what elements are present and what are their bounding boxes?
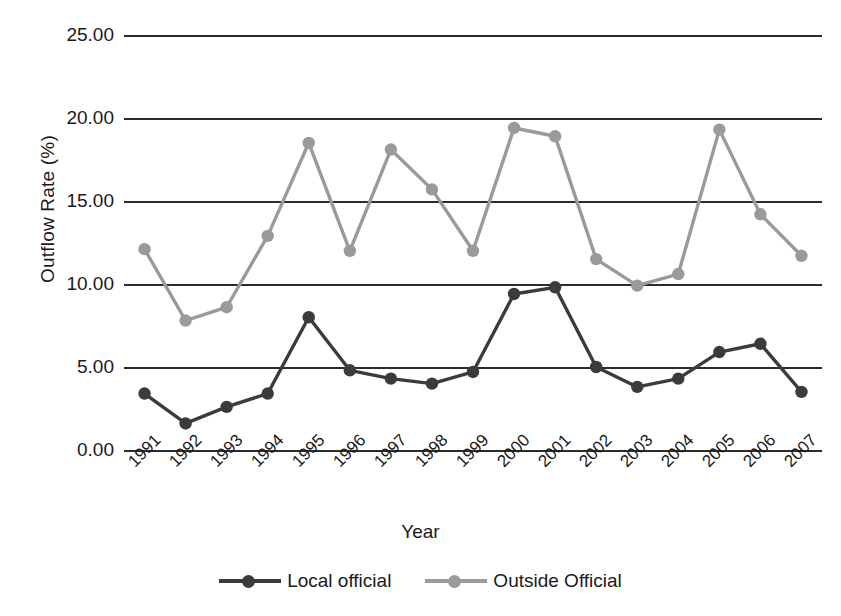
y-axis-tick-label: 15.00: [32, 191, 114, 210]
data-point-marker: [344, 245, 356, 257]
data-point-marker: [590, 361, 602, 373]
data-point-marker: [795, 250, 807, 262]
data-point-marker: [385, 143, 397, 155]
series-line: [145, 128, 802, 321]
data-point-marker: [549, 130, 561, 142]
line-chart: Outflow Rate (%) 25.0020.0015.0010.005.0…: [0, 0, 841, 616]
data-point-marker: [262, 387, 274, 399]
legend-marker-icon: [425, 573, 487, 589]
y-axis-tick-label: 25.00: [32, 25, 114, 44]
data-point-marker: [220, 401, 232, 413]
data-point-marker: [138, 387, 150, 399]
data-point-marker: [508, 288, 520, 300]
data-point-marker: [754, 208, 766, 220]
y-axis-tick-label: 5.00: [32, 357, 114, 376]
data-point-marker: [467, 245, 479, 257]
data-point-marker: [631, 279, 643, 291]
data-point-marker: [672, 268, 684, 280]
series-canvas: [124, 35, 822, 450]
data-point-marker: [631, 381, 643, 393]
data-point-marker: [303, 311, 315, 323]
data-point-marker: [262, 230, 274, 242]
plot-area: [124, 35, 822, 450]
data-point-marker: [179, 314, 191, 326]
data-point-marker: [754, 338, 766, 350]
y-axis-tick-label: 0.00: [32, 440, 114, 459]
series-line: [145, 287, 802, 423]
data-point-marker: [220, 301, 232, 313]
data-point-marker: [303, 137, 315, 149]
y-axis-tick-label: 10.00: [32, 274, 114, 293]
data-point-marker: [549, 281, 561, 293]
legend-dot-icon: [448, 575, 461, 588]
data-point-marker: [795, 386, 807, 398]
data-point-marker: [426, 377, 438, 389]
legend-item[interactable]: Local official: [219, 570, 391, 592]
data-point-marker: [508, 122, 520, 134]
data-point-marker: [426, 183, 438, 195]
data-point-marker: [138, 243, 150, 255]
data-point-marker: [713, 346, 725, 358]
data-point-marker: [672, 372, 684, 384]
legend-item[interactable]: Outside Official: [425, 570, 621, 592]
y-axis-tick-label: 20.00: [32, 108, 114, 127]
x-axis-tick-labels: 1991199219931994199519961997199819992000…: [124, 450, 822, 520]
data-point-marker: [385, 372, 397, 384]
legend-label: Outside Official: [493, 570, 621, 592]
data-point-marker: [179, 417, 191, 429]
chart-legend: Local officialOutside Official: [0, 570, 841, 592]
legend-dot-icon: [242, 575, 255, 588]
x-axis-title: Year: [0, 521, 841, 543]
data-point-marker: [344, 364, 356, 376]
data-point-marker: [713, 123, 725, 135]
legend-label: Local official: [287, 570, 391, 592]
data-point-marker: [590, 253, 602, 265]
legend-marker-icon: [219, 573, 281, 589]
data-point-marker: [467, 366, 479, 378]
